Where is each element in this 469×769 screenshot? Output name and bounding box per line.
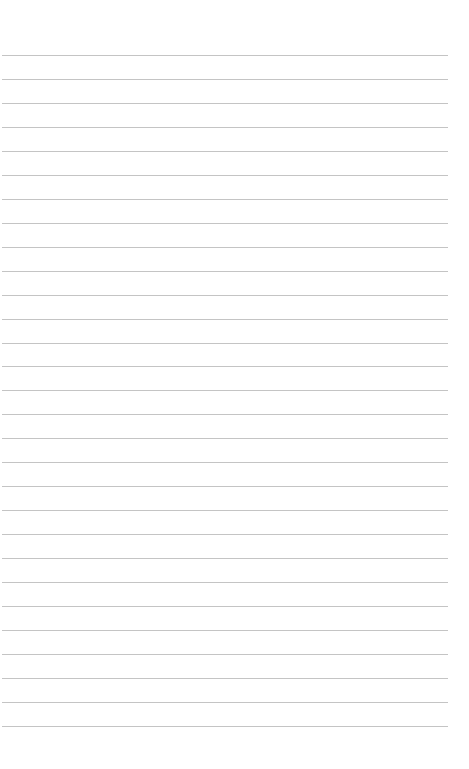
ruled-line (2, 55, 448, 56)
ruled-line (2, 175, 448, 176)
ruled-line (2, 678, 448, 679)
ruled-line (2, 271, 448, 272)
ruled-line (2, 726, 448, 727)
ruled-line (2, 438, 448, 439)
ruled-line (2, 319, 448, 320)
ruled-line (2, 295, 448, 296)
ruled-line (2, 654, 448, 655)
ruled-line (2, 462, 448, 463)
ruled-line (2, 582, 448, 583)
ruled-line (2, 127, 448, 128)
ruled-line (2, 199, 448, 200)
ruled-line (2, 606, 448, 607)
ruled-line (2, 486, 448, 487)
ruled-line (2, 103, 448, 104)
ruled-line (2, 366, 448, 367)
ruled-line (2, 223, 448, 224)
ruled-line (2, 702, 448, 703)
ruled-line (2, 510, 448, 511)
ruled-line (2, 630, 448, 631)
ruled-line (2, 247, 448, 248)
ruled-line (2, 558, 448, 559)
ruled-line (2, 343, 448, 344)
ruled-line (2, 151, 448, 152)
ruled-line (2, 534, 448, 535)
ruled-line (2, 414, 448, 415)
ruled-line (2, 79, 448, 80)
ruled-line (2, 390, 448, 391)
